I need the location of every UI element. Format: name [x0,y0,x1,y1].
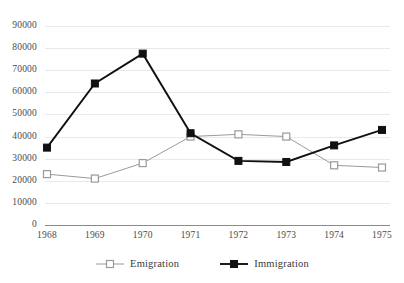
legend-item-immigration[interactable]: Immigration [219,258,309,269]
series-immigration [44,50,386,165]
y-axis-tick-label: 40000 [0,132,37,142]
data-point-marker [91,175,98,182]
data-point-marker [91,80,98,87]
data-point-marker [235,131,242,138]
series-line [47,134,382,178]
x-axis-tick-label: 1970 [120,230,166,240]
y-axis-tick-label: 30000 [0,154,37,164]
data-point-marker [379,164,386,171]
y-axis-tick-label: 70000 [0,65,37,75]
legend-label: Immigration [254,258,309,269]
x-axis-tick-label: 1969 [72,230,118,240]
x-axis-tick-label: 1968 [24,230,70,240]
legend-item-emigration[interactable]: Emigration [95,258,179,269]
y-axis-tick-label: 0 [0,220,37,230]
x-axis-tick-label: 1971 [168,230,214,240]
line-chart: 0100002000030000400005000060000700008000… [0,0,404,283]
data-point-marker [283,158,290,165]
data-point-marker [44,144,51,151]
filled-square-icon [219,259,249,269]
data-point-marker [331,142,338,149]
data-point-marker [235,157,242,164]
series-layer [45,26,390,225]
y-axis-tick-label: 50000 [0,109,37,119]
chart-legend: EmigrationImmigration [0,258,404,269]
x-axis-tick-label: 1972 [215,230,261,240]
open-square-icon [95,259,125,269]
y-axis-tick-label: 90000 [0,21,37,31]
y-axis-tick-label: 80000 [0,43,37,53]
y-axis-tick-label: 60000 [0,87,37,97]
y-axis-tick-label: 20000 [0,176,37,186]
data-point-marker [379,126,386,133]
y-axis-tick-label: 10000 [0,198,37,208]
plot-area [45,26,390,225]
data-point-marker [44,171,51,178]
x-axis-tick-label: 1975 [359,230,404,240]
data-point-marker [139,160,146,167]
x-axis-tick-label: 1974 [311,230,357,240]
data-point-marker [283,133,290,140]
series-emigration [44,131,386,182]
data-point-marker [187,130,194,137]
data-point-marker [139,50,146,57]
x-axis-tick-label: 1973 [263,230,309,240]
x-axis-line [45,225,390,226]
legend-label: Emigration [130,258,179,269]
data-point-marker [331,162,338,169]
